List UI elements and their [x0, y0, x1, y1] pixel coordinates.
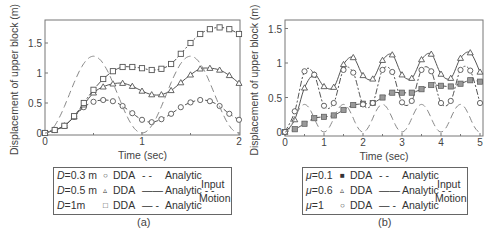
legend-value: =0.3 m: [65, 169, 97, 181]
legend-input-line2: Motion: [435, 191, 467, 205]
filled-square-marker: [409, 90, 414, 95]
filled-square-marker: [341, 107, 346, 112]
legend-param: D: [57, 199, 65, 211]
triangle-marker: [168, 87, 174, 92]
legend-style: - -: [142, 168, 152, 183]
legend-dda: DDA: [113, 198, 135, 213]
x-tick-label: 3: [399, 137, 405, 148]
square-marker: [236, 31, 241, 36]
y-axis-label: Displacement of upper block (m): [248, 4, 260, 155]
circle-marker: [207, 99, 212, 104]
triangle-marker: [139, 88, 145, 93]
legend-row: μ=1: [306, 198, 324, 213]
x-tick-label: 2: [236, 136, 242, 147]
legend-analytic: Analytic: [165, 198, 202, 213]
square-marker: [130, 64, 135, 69]
legend-style: - -: [379, 168, 389, 183]
legend-dda: DDA: [113, 168, 135, 183]
legend-analytic: Analytic: [402, 198, 439, 213]
legend-style: — -: [379, 198, 396, 213]
legend-value: =0.1: [312, 169, 333, 181]
circle-marker: [351, 70, 356, 75]
circle-marker: [236, 117, 241, 122]
circle-marker: [458, 67, 463, 72]
square-marker: [169, 61, 174, 66]
legend-marker: ■: [340, 168, 345, 183]
y-tick-label: 1.5: [28, 38, 42, 49]
x-axis-label: Time (sec): [359, 150, 408, 162]
legend-value: =1: [312, 199, 324, 211]
triangle-marker: [399, 72, 405, 77]
legend-marker: ○: [103, 168, 108, 183]
filled-square-marker: [448, 84, 453, 89]
triangle-marker: [226, 72, 232, 77]
legend-row: D=0.5 m: [57, 183, 97, 198]
circle-marker: [419, 67, 424, 72]
filled-square-marker: [351, 102, 356, 107]
filled-square-marker: [438, 83, 443, 88]
x-tick-label: 1: [139, 136, 145, 147]
legend-dda: DDA: [113, 183, 135, 198]
x-tick-label: 2: [360, 137, 366, 148]
chart-a: 01200.511.5Time (sec)Displacement of upp…: [8, 4, 242, 161]
legend-input-line2: Motion: [199, 191, 231, 205]
square-marker: [91, 87, 96, 92]
circle-marker: [120, 103, 125, 108]
square-marker: [101, 76, 106, 81]
square-marker: [62, 123, 67, 128]
circle-marker: [380, 67, 385, 72]
x-tick-label: 5: [477, 137, 483, 148]
filled-square-marker: [419, 87, 424, 92]
x-tick-label: 1: [321, 137, 327, 148]
legend-input-line1: Input: [199, 177, 231, 191]
filled-square-marker: [292, 127, 297, 132]
triangle-marker: [438, 71, 444, 76]
legend-marker: □: [103, 198, 108, 213]
circle-marker: [101, 97, 106, 102]
circle-marker: [91, 99, 96, 104]
circle-marker: [198, 97, 203, 102]
x-tick-label: 0: [42, 136, 48, 147]
filled-square-marker: [390, 90, 395, 95]
caption-b: (b): [378, 216, 391, 228]
circle-marker: [159, 117, 164, 122]
legend-analytic: Analytic: [165, 168, 202, 183]
square-marker: [120, 64, 125, 69]
legend-style: ——: [142, 183, 163, 198]
legend-value: =0.5 m: [65, 184, 97, 196]
legend-row: μ=0.1: [306, 168, 333, 183]
x-tick-label: 4: [438, 137, 444, 148]
circle-marker: [188, 100, 193, 105]
y-tick-label: 0: [276, 127, 282, 138]
filled-square-marker: [321, 114, 326, 119]
legend-value: =0.6: [312, 184, 333, 196]
square-marker: [149, 67, 154, 72]
legend-a: D=0.3 m ○ DDA - - Analytic D=0.5 m ▵ DDA…: [53, 167, 232, 215]
circle-marker: [448, 98, 453, 103]
circle-marker: [429, 69, 434, 74]
square-marker: [188, 40, 193, 45]
legend-style: — -: [142, 198, 159, 213]
square-marker: [198, 31, 203, 36]
legend-style: ——: [379, 183, 400, 198]
square-marker: [52, 127, 57, 132]
circle-marker: [477, 100, 482, 105]
legend-param: D: [57, 169, 65, 181]
circle-marker: [130, 111, 135, 116]
legend-value: =1m: [65, 199, 86, 211]
circle-marker: [227, 111, 232, 116]
y-tick-label: 0.5: [268, 93, 282, 104]
legend-marker: ▵: [103, 183, 107, 198]
square-marker: [110, 69, 115, 74]
y-tick-label: 1: [276, 58, 282, 69]
circle-marker: [169, 111, 174, 116]
y-axis-label: Displacement of upper block (m): [8, 4, 20, 155]
filled-square-marker: [477, 79, 482, 84]
square-marker: [227, 27, 232, 32]
square-marker: [178, 51, 183, 56]
circle-marker: [312, 72, 317, 77]
circle-marker: [438, 100, 443, 105]
legend-marker: ▵: [340, 183, 344, 198]
square-marker: [72, 114, 77, 119]
y-tick-label: 0: [36, 128, 42, 139]
